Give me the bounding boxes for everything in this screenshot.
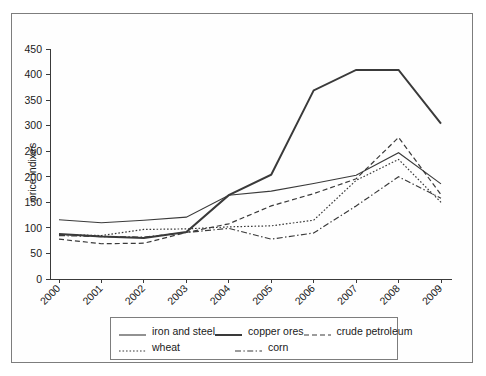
x-tick-label: 2003 [165,282,190,307]
x-tick-label: 2006 [292,282,317,307]
legend-item-wheat[interactable]: wheat [119,339,235,355]
series-line-crude-petroleum [59,137,441,243]
legend-swatch-icon [235,342,262,352]
legend-label: crude petroleum [337,325,413,337]
x-tick-label: 2008 [377,282,402,307]
y-tick-label: 400 [24,68,42,80]
legend-label: corn [268,341,288,353]
y-axis-title: price indixes [26,143,38,201]
legend-item-crude-petroleum[interactable]: crude petroleum [304,323,413,339]
legend-swatch-icon [215,326,242,336]
legend-swatch-icon [119,326,146,336]
x-tick-label: 2009 [419,282,444,307]
y-tick-label: 100 [24,222,42,234]
series-lines [59,70,441,244]
legend-item-iron-and-steel[interactable]: iron and steel [119,323,215,339]
series-line-copper-ores [59,70,441,238]
legend-item-copper-ores[interactable]: copper ores [215,323,303,339]
series-line-wheat [59,159,441,235]
legend-swatch-icon [304,326,331,336]
chart-legend: iron and steelcopper orescrude petroleum… [110,317,398,360]
x-tick-label: 2002 [122,282,147,307]
x-tick-label: 2007 [335,282,360,307]
y-tick-label: 0 [36,273,42,285]
y-tick-label: 450 [24,43,42,55]
x-axis: 2000200120022003200420052006200720082009 [37,279,452,307]
legend-label: iron and steel [152,325,215,337]
legend-row: iron and steelcopper orescrude petroleum [119,323,389,339]
x-tick-label: 2004 [207,282,232,307]
legend-label: wheat [152,341,180,353]
x-tick-label: 2005 [250,282,275,307]
series-line-corn [59,177,441,239]
legend-swatch-icon [119,342,146,352]
x-tick-label: 2001 [80,282,105,307]
y-tick-label: 300 [24,119,42,131]
y-tick-label: 350 [24,94,42,106]
series-line-iron-and-steel [59,153,441,223]
line-chart-plot: 050100150200250300350400450 200020012002… [12,14,472,362]
legend-label: copper ores [248,325,303,337]
legend-item-corn[interactable]: corn [235,339,335,355]
chart-figure: 050100150200250300350400450 200020012002… [11,13,473,363]
x-tick-label: 2000 [37,282,62,307]
legend-row: wheatcorn [119,339,389,355]
y-tick-label: 50 [30,247,42,259]
